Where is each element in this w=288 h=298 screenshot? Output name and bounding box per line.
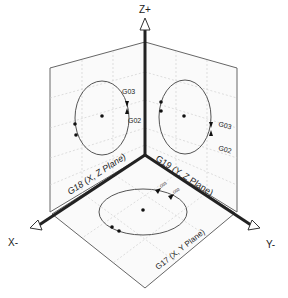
xz-g02-label: G02 [128, 117, 141, 124]
xz-g03-label: G03 [122, 88, 135, 95]
x-axis-arrow-icon [30, 220, 42, 230]
cnc-plane-selection-diagram: Z+ X- Y- G18 (X, Z Plane) G19 (Y, Z Plan… [0, 0, 288, 298]
z-axis-arrow-icon [140, 18, 150, 30]
x-axis-label: X- [8, 237, 18, 248]
y-axis-arrow-icon [248, 220, 260, 230]
y-axis-label: Y- [266, 239, 275, 250]
z-axis-label: Z+ [139, 4, 151, 15]
